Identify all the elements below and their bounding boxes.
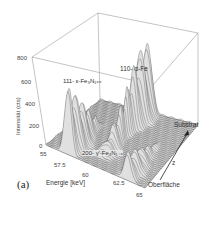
panel-label: (a) [17,178,29,190]
peak-label-110: 110- α-Fe [120,66,148,73]
y-tick: 600 [21,79,31,85]
y-tick: 400 [25,101,35,107]
y-tick: 200 [29,123,39,129]
y-tick: 800 [17,55,27,61]
x-tick: 62.5 [113,180,125,186]
z-axis-label: z [172,160,175,167]
y-tick: 0 [39,143,42,149]
oberflaeche-label: Oberfläche [148,182,180,189]
y-axis-label: Intensität (cts) [15,97,21,135]
x-axis-label: Energie [keV] [46,180,85,187]
x-tick: 57.5 [54,162,66,168]
peak-label-200: 200- γ'-Fe₄N₁₋ₓ [82,150,123,156]
substrat-label: Substrat [174,122,198,129]
x-tick: 65 [136,192,143,198]
x-tick: 60 [82,172,89,178]
peak-label-111: 111- ε-Fe₃N₁₊ₓ [63,78,101,84]
x-tick: 55 [40,151,47,157]
